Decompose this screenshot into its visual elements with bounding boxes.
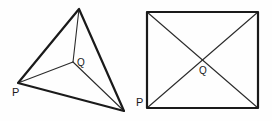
left-point-label-q: Q — [77, 57, 85, 68]
left-figure-tetrahedron: P Q — [12, 9, 124, 111]
right-point-label-q: Q — [199, 65, 207, 76]
right-figure-square-pyramid: P Q — [136, 12, 258, 108]
left-vertex-label-p: P — [12, 86, 19, 98]
geometry-figure-canvas: P Q P Q — [0, 0, 272, 121]
geometry-diagram: P Q P Q — [0, 0, 272, 121]
left-edge-apex-to-q — [73, 9, 79, 62]
right-vertex-label-p: P — [136, 96, 143, 108]
